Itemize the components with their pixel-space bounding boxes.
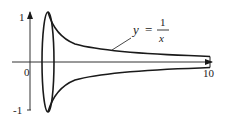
origin-label: 0 (24, 66, 30, 78)
label-leader-line (112, 38, 131, 50)
function-label-y: y (131, 22, 139, 37)
x-end-label: 10 (203, 67, 215, 79)
function-label-denominator: x (158, 32, 164, 44)
lower-curve (48, 68, 210, 113)
function-label-equals: = (145, 22, 152, 37)
y-tick-label-1: 1 (19, 11, 25, 23)
upper-curve (48, 12, 210, 57)
gabriels-horn-diagram: y = 1 x 1 -1 0 10 (0, 0, 230, 121)
function-label-numerator: 1 (160, 16, 166, 28)
y-tick-label-minus-1: -1 (13, 104, 22, 116)
